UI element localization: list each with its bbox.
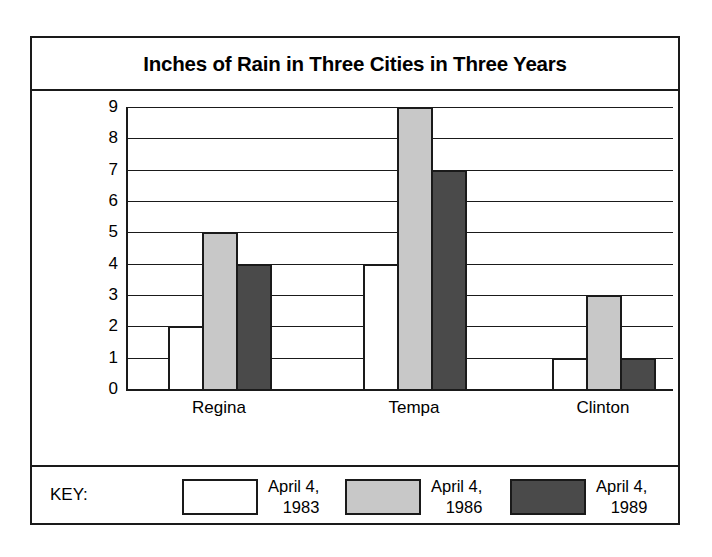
bar — [552, 358, 588, 391]
x-axis-category-label: Tempa — [323, 399, 505, 416]
y-axis-tick-label: 0 — [78, 380, 118, 397]
legend-label: April 4,1989 — [596, 476, 647, 517]
bar — [168, 326, 204, 391]
legend-label-line1: April 4, — [268, 477, 319, 495]
bar — [620, 358, 656, 391]
chart-outer-frame: Inches of Rain in Three Cities in Three … — [30, 36, 680, 525]
legend-item: April 4,1989 — [510, 476, 647, 517]
x-axis-category-label: Regina — [128, 399, 310, 416]
legend-key-label: KEY: — [50, 485, 88, 505]
legend-swatch — [345, 479, 421, 515]
y-axis-tick-label: 5 — [78, 223, 118, 240]
legend-label-line2: 1983 — [268, 497, 319, 518]
y-axis-tick-label: 8 — [78, 129, 118, 146]
y-axis-tick-label: 9 — [78, 98, 118, 115]
plot-area: 0123456789ReginaTempaClinton — [32, 91, 678, 465]
legend-label-line1: April 4, — [431, 477, 482, 495]
legend-swatch — [510, 479, 586, 515]
chart-plot-band: 0123456789ReginaTempaClinton — [32, 91, 678, 467]
chart-title: Inches of Rain in Three Cities in Three … — [143, 52, 567, 76]
y-axis-tick-label: 4 — [78, 255, 118, 272]
legend-label: April 4,1986 — [431, 476, 482, 517]
legend-label: April 4,1983 — [268, 476, 319, 517]
bar — [431, 170, 467, 391]
bar — [586, 295, 622, 391]
legend-label-line2: 1989 — [596, 497, 647, 518]
legend-item: April 4,1986 — [345, 476, 482, 517]
y-axis-tick-label: 3 — [78, 286, 118, 303]
y-axis-tick-label: 1 — [78, 349, 118, 366]
y-axis-tick-label: 6 — [78, 192, 118, 209]
legend-swatch — [182, 479, 258, 515]
bar — [363, 264, 399, 391]
x-axis-category-label: Clinton — [512, 399, 694, 416]
legend-label-line1: April 4, — [596, 477, 647, 495]
chart-figure: Inches of Rain in Three Cities in Three … — [0, 0, 712, 557]
bar — [236, 264, 272, 391]
chart-title-band: Inches of Rain in Three Cities in Three … — [32, 38, 678, 91]
y-axis-tick-label: 2 — [78, 317, 118, 334]
legend-label-line2: 1986 — [431, 497, 482, 518]
bar — [202, 232, 238, 391]
y-axis-line — [126, 107, 128, 391]
bar — [397, 107, 433, 391]
y-axis-tick-label: 7 — [78, 161, 118, 178]
legend-item: April 4,1983 — [182, 476, 319, 517]
chart-legend: KEY: April 4,1983April 4,1986April 4,198… — [32, 467, 678, 523]
